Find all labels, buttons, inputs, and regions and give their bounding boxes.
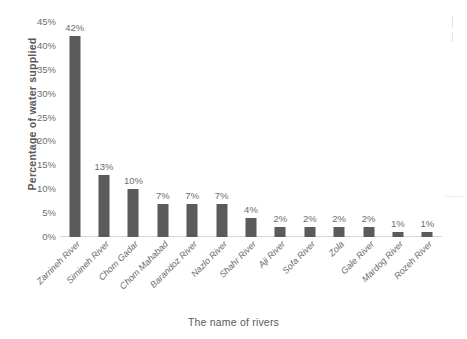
bar-value-label: 2% [362,214,376,224]
bar-value-label: 1% [391,219,405,229]
bar-group: 7% [207,22,236,237]
x-axis-title: The name of rivers [0,316,467,328]
bar-value-label: 2% [274,214,288,224]
bar [422,232,433,237]
bar [157,204,168,237]
y-axis-tick-label: 5% [26,208,56,218]
bar-group: 1% [383,22,412,237]
y-axis-tick-label: 45% [26,17,56,27]
bar-group: 1% [413,22,442,237]
y-axis-tick-label: 30% [26,89,56,99]
bar [216,204,227,237]
bar [69,36,80,237]
bar-value-label: 7% [215,191,229,201]
bar-group: 10% [119,22,148,237]
bar-group: 2% [295,22,324,237]
bar-value-label: 2% [332,214,346,224]
bar [128,189,139,237]
y-axis-tick-label: 35% [26,65,56,75]
bar-group: 4% [236,22,265,237]
y-axis-tick-label: 0% [26,232,56,242]
bar-group: 2% [266,22,295,237]
bar-value-label: 13% [95,162,114,172]
y-axis-tick-label: 15% [26,160,56,170]
scan-artifact [452,33,453,42]
bar [363,227,374,237]
x-axis-tick-labels: Zarrineh RiverSimineh RiverChom GadarCho… [60,239,442,309]
bar-group: 2% [324,22,353,237]
bar-group: 2% [354,22,383,237]
scan-artifact [452,16,453,28]
y-axis-tick-label: 10% [26,184,56,194]
bar-group: 7% [178,22,207,237]
bar-group: 42% [60,22,89,237]
bar [275,227,286,237]
bar [99,175,110,237]
bar [392,232,403,237]
scan-artifact [445,196,463,197]
plot-area: 42%13%10%7%7%7%4%2%2%2%2%1%1% [60,22,442,237]
bar-value-label: 7% [185,191,199,201]
bar [334,227,345,237]
bar-value-label: 1% [420,219,434,229]
bar [187,204,198,237]
bar-value-label: 4% [244,205,258,215]
bar [304,227,315,237]
y-axis-tick-labels: 0%5%10%15%20%25%30%35%40%45% [26,15,56,243]
bar-value-label: 7% [156,191,170,201]
bar-value-label: 10% [124,176,143,186]
y-axis-tick-label: 40% [26,41,56,51]
bar-value-label: 2% [303,214,317,224]
bar-value-label: 42% [65,23,84,33]
bar-group: 13% [89,22,118,237]
bar-chart: Percentage of water supplied 0%5%10%15%2… [0,0,467,339]
bar-group: 7% [148,22,177,237]
bar [245,218,256,237]
y-axis-tick-label: 20% [26,136,56,146]
y-axis-tick-label: 25% [26,113,56,123]
